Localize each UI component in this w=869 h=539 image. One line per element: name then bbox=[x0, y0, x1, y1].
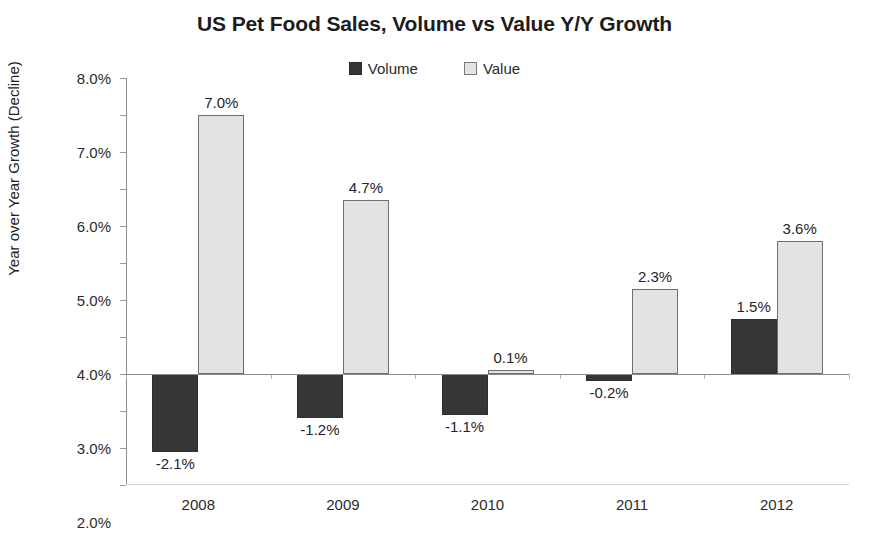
bar-label-value-2012: 3.6% bbox=[783, 220, 817, 237]
bar-volume-2008[interactable] bbox=[152, 374, 198, 452]
y-axis-tick: 3.0% bbox=[120, 263, 126, 264]
y-axis-tick: -1.0% bbox=[120, 411, 126, 412]
legend-item-value: Value bbox=[464, 60, 520, 77]
y-axis-tick: 5.0% bbox=[120, 189, 126, 190]
y-axis-tick: -3.0% bbox=[120, 485, 126, 486]
chart-title: US Pet Food Sales, Volume vs Value Y/Y G… bbox=[0, 12, 869, 36]
y-axis-tick-label: 7.0% bbox=[77, 144, 111, 161]
bar-label-volume-2011: -0.2% bbox=[590, 384, 629, 401]
legend-label-value: Value bbox=[483, 60, 520, 77]
chart-container: US Pet Food Sales, Volume vs Value Y/Y G… bbox=[0, 0, 869, 539]
y-axis-tick: 1.0% bbox=[120, 337, 126, 338]
y-axis-tick-label: 4.0% bbox=[77, 366, 111, 383]
plot-area: 8.0%7.0%6.0%5.0%4.0%3.0%2.0%1.0%0.0%-1.0… bbox=[126, 78, 849, 485]
bar-volume-2012[interactable] bbox=[731, 319, 777, 375]
x-axis-label-2009: 2009 bbox=[326, 496, 359, 513]
x-axis-label-2012: 2012 bbox=[760, 496, 793, 513]
x-axis-bottom-line bbox=[126, 484, 849, 485]
y-axis-tick: 2.0% bbox=[120, 300, 126, 301]
bar-label-volume-2009: -1.2% bbox=[300, 421, 339, 438]
bar-volume-2011[interactable] bbox=[586, 374, 632, 381]
x-axis-label-2011: 2011 bbox=[616, 496, 648, 513]
y-axis-tick: 7.0% bbox=[120, 115, 126, 116]
bar-label-value-2008: 7.0% bbox=[204, 94, 238, 111]
y-axis-tick-label: 2.0% bbox=[77, 514, 111, 531]
legend-item-volume: Volume bbox=[349, 60, 418, 77]
bar-volume-2010[interactable] bbox=[442, 374, 488, 415]
legend-label-volume: Volume bbox=[368, 60, 418, 77]
bar-volume-2009[interactable] bbox=[297, 374, 343, 418]
bar-value-2008[interactable] bbox=[198, 115, 244, 374]
legend-swatch-value-icon bbox=[464, 62, 477, 75]
x-axis-label-2010: 2010 bbox=[471, 496, 504, 513]
bar-label-volume-2010: -1.1% bbox=[445, 418, 484, 435]
y-axis-tick: 6.0% bbox=[120, 152, 126, 153]
y-axis-tick: 4.0% bbox=[120, 226, 126, 227]
y-axis-tick: -2.0% bbox=[120, 448, 126, 449]
y-axis-line bbox=[126, 78, 127, 485]
bar-label-value-2009: 4.7% bbox=[349, 179, 383, 196]
legend-swatch-volume-icon bbox=[349, 62, 362, 75]
y-axis-tick-label: 8.0% bbox=[77, 70, 111, 87]
bar-label-value-2011: 2.3% bbox=[638, 268, 672, 285]
y-axis-title: Year over Year Growth (Decline) bbox=[5, 9, 22, 329]
zero-baseline bbox=[126, 374, 849, 375]
y-axis-tick-label: 6.0% bbox=[77, 218, 111, 235]
bar-label-volume-2012: 1.5% bbox=[737, 298, 771, 315]
y-axis-tick-label: 5.0% bbox=[77, 292, 111, 309]
x-axis-tick bbox=[849, 374, 850, 379]
bar-value-2011[interactable] bbox=[632, 289, 678, 374]
chart-legend: Volume Value bbox=[0, 60, 869, 77]
bar-value-2009[interactable] bbox=[343, 200, 389, 374]
x-axis-label-2008: 2008 bbox=[182, 496, 215, 513]
bar-label-volume-2008: -2.1% bbox=[156, 455, 195, 472]
bar-value-2012[interactable] bbox=[777, 241, 823, 374]
y-axis-tick: 8.0% bbox=[120, 78, 126, 79]
bar-label-value-2010: 0.1% bbox=[493, 349, 527, 366]
y-axis-tick-label: 3.0% bbox=[77, 440, 111, 457]
